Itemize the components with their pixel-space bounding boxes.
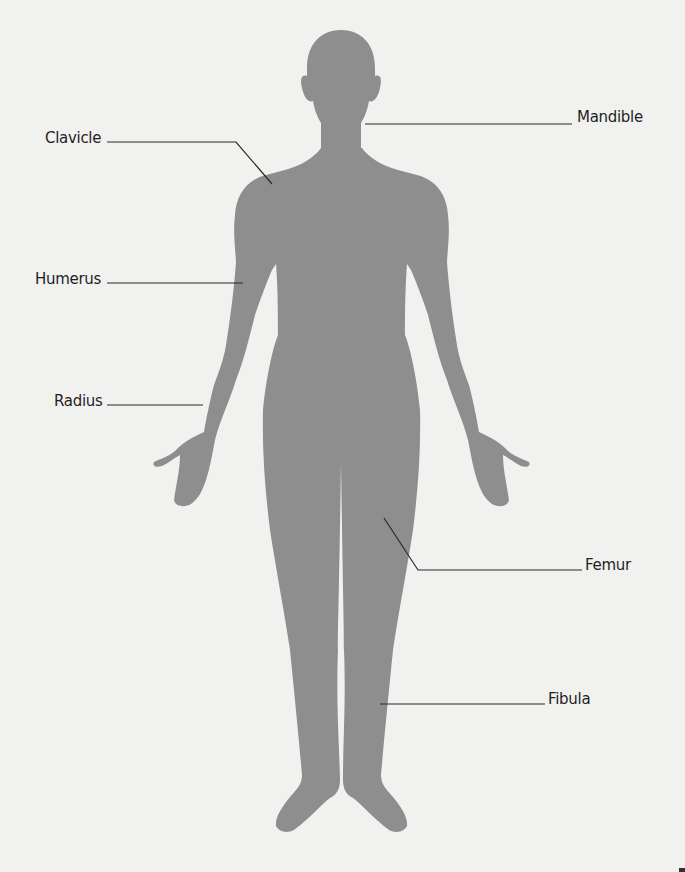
body-shape — [153, 148, 529, 832]
femur-leader-line — [384, 518, 582, 570]
label-fibula: Fibula — [548, 690, 590, 708]
head-shape — [301, 30, 381, 160]
label-mandible: Mandible — [577, 108, 643, 126]
clavicle-leader-line — [107, 142, 272, 184]
body-diagram: Mandible Clavicle Humerus Radius Femur F… — [0, 0, 685, 872]
label-radius: Radius — [54, 392, 103, 410]
page-corner-mark — [679, 868, 685, 872]
label-humerus: Humerus — [35, 270, 101, 288]
label-clavicle: Clavicle — [45, 129, 101, 147]
human-silhouette — [0, 0, 685, 872]
label-femur: Femur — [585, 556, 631, 574]
